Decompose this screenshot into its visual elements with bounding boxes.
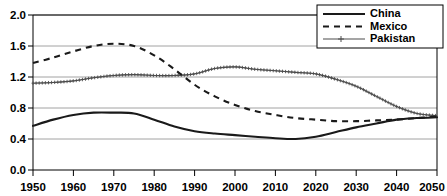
pakistan-data-marker — [78, 78, 81, 81]
pakistan-data-marker — [186, 73, 189, 76]
xtick-label-1970: 1970 — [101, 181, 127, 193]
legend-label-mexico: Mexico — [370, 20, 408, 32]
pakistan-data-marker — [66, 80, 69, 83]
pakistan-data-marker — [130, 73, 133, 76]
pakistan-data-marker — [367, 91, 370, 94]
pakistan-data-marker — [195, 72, 198, 75]
pakistan-data-marker — [342, 80, 345, 83]
pakistan-data-marker — [192, 72, 195, 75]
pakistan-data-marker — [351, 83, 354, 86]
pakistan-data-marker — [315, 72, 318, 75]
pakistan-data-marker — [407, 109, 410, 112]
pakistan-data-marker — [275, 69, 278, 72]
pakistan-data-marker — [32, 82, 35, 85]
pakistan-data-marker — [38, 81, 41, 84]
pakistan-data-marker — [392, 104, 395, 107]
pakistan-data-marker — [253, 68, 256, 71]
pakistan-data-marker — [425, 113, 428, 116]
pakistan-data-marker — [53, 81, 56, 84]
pakistan-data-marker — [293, 71, 296, 74]
pakistan-data-marker — [50, 81, 53, 84]
pakistan-data-marker — [72, 79, 75, 82]
y-axis-labels: 2.0 1.6 1.2 0.8 0.4 0.0 — [10, 9, 27, 176]
pakistan-data-marker — [378, 96, 381, 99]
pakistan-data-marker — [387, 101, 390, 104]
pakistan-data-marker — [47, 81, 50, 84]
pakistan-data-marker — [381, 98, 384, 101]
pakistan-data-marker — [143, 73, 146, 76]
pakistan-data-marker — [219, 66, 222, 69]
xtick-label-2010: 2010 — [263, 181, 289, 193]
pakistan-data-marker — [59, 80, 62, 83]
series-line-mexico — [33, 44, 437, 122]
ytick-label-1-6: 1.6 — [10, 40, 26, 52]
pakistan-data-marker — [339, 79, 342, 82]
pakistan-data-marker — [121, 73, 124, 76]
series-markers-pakistan — [32, 65, 438, 117]
pakistan-data-marker — [222, 66, 225, 69]
pakistan-data-marker — [321, 74, 324, 77]
xtick-label-2040: 2040 — [384, 181, 410, 193]
pakistan-data-marker — [115, 74, 118, 77]
xtick-label-2030: 2030 — [343, 181, 369, 193]
ytick-label-0-8: 0.8 — [10, 102, 27, 114]
x-axis-labels: 1950 1960 1970 1980 1990 2000 2010 2020 … — [20, 181, 445, 193]
pakistan-data-marker — [216, 66, 219, 69]
pakistan-data-marker — [96, 76, 99, 79]
pakistan-data-marker — [290, 70, 293, 73]
pakistan-data-marker — [213, 67, 216, 70]
line-chart: 2.0 1.6 1.2 0.8 0.4 0.0 1950 1960 1970 1… — [0, 0, 447, 196]
pakistan-data-marker — [287, 70, 290, 73]
pakistan-data-marker — [376, 95, 379, 98]
pakistan-data-marker — [348, 82, 351, 85]
pakistan-data-marker — [306, 71, 309, 74]
pakistan-data-marker — [389, 102, 392, 105]
pakistan-data-marker — [136, 73, 139, 76]
pakistan-data-marker — [99, 75, 102, 78]
pakistan-data-marker — [69, 80, 72, 83]
pakistan-data-marker — [81, 78, 84, 81]
pakistan-data-marker — [198, 71, 201, 74]
pakistan-data-marker — [362, 88, 365, 91]
xtick-label-1980: 1980 — [141, 181, 167, 193]
pakistan-data-marker — [247, 67, 250, 70]
pakistan-data-marker — [272, 69, 275, 72]
pakistan-data-marker — [384, 99, 387, 102]
pakistan-data-marker — [229, 65, 232, 68]
series-line-china — [33, 112, 437, 139]
pakistan-data-marker — [284, 70, 287, 73]
pakistan-data-marker — [44, 81, 47, 84]
pakistan-data-marker — [56, 80, 59, 83]
pakistan-data-marker — [127, 73, 130, 76]
pakistan-data-marker — [266, 69, 269, 72]
x-axis-ticks — [33, 170, 437, 176]
pakistan-data-marker — [336, 78, 339, 81]
pakistan-data-marker — [345, 81, 348, 84]
legend: China Mexico Pakistan — [317, 5, 443, 48]
pakistan-data-marker — [413, 111, 416, 114]
pakistan-data-marker — [149, 74, 152, 77]
pakistan-data-marker — [353, 84, 356, 87]
xtick-label-2020: 2020 — [303, 181, 329, 193]
pakistan-data-marker — [93, 76, 96, 79]
pakistan-data-marker — [404, 108, 407, 111]
pakistan-data-marker — [118, 73, 121, 76]
chart-container: 2.0 1.6 1.2 0.8 0.4 0.0 1950 1960 1970 1… — [0, 0, 447, 196]
series-group — [32, 44, 438, 139]
pakistan-data-marker — [365, 89, 368, 92]
series-line-pakistan — [33, 67, 437, 116]
xtick-label-2050: 2050 — [419, 181, 445, 193]
pakistan-data-marker — [318, 73, 321, 76]
pakistan-data-marker — [207, 68, 210, 71]
pakistan-data-marker — [422, 113, 425, 116]
pakistan-data-marker — [201, 70, 204, 73]
pakistan-data-marker — [124, 73, 127, 76]
pakistan-data-marker — [41, 81, 44, 84]
pakistan-data-marker — [204, 69, 207, 72]
pakistan-data-marker — [370, 92, 373, 95]
pakistan-data-marker — [225, 65, 228, 68]
pakistan-data-marker — [398, 106, 401, 109]
pakistan-data-marker — [238, 65, 241, 68]
pakistan-data-marker — [303, 71, 306, 74]
pakistan-data-marker — [189, 73, 192, 76]
